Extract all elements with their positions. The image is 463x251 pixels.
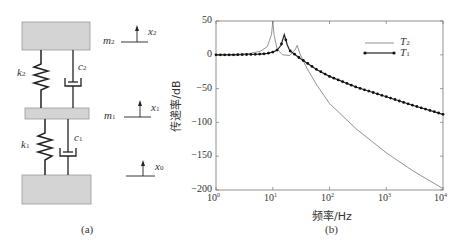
ytick-label: −150 (180, 149, 212, 160)
ytick-label: −50 (184, 82, 212, 93)
xtick-label: 102 (321, 192, 334, 203)
x-axis-label: 频率/Hz (312, 207, 352, 223)
ytick-label: −100 (180, 116, 212, 127)
xtick-label: 104 (434, 192, 447, 203)
y-axis-label: 传递率/dB (167, 71, 183, 141)
caption-b: (b) (325, 223, 338, 235)
ytick-label: 0 (192, 48, 212, 59)
xtick-label: 100 (207, 192, 220, 203)
chart-plot-area (0, 0, 463, 251)
legend (363, 43, 395, 55)
ytick-label: 50 (192, 14, 212, 25)
legend-t1-label: T1 (400, 46, 410, 58)
xtick-label: 103 (378, 192, 391, 203)
xtick-label: 101 (264, 192, 277, 203)
